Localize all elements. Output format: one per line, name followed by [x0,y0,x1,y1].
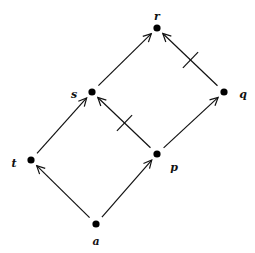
arrow-line [164,97,219,147]
node-p-dot [153,150,160,157]
node-p-label: p [170,161,178,174]
edges-layer [37,34,218,218]
edge-t-s [37,98,87,153]
labels-layer: rsqtpa [11,10,247,248]
node-r-label: r [154,10,161,23]
edge-q-r [163,34,218,86]
arrow-line [98,34,151,86]
hasse-diagram: rsqtpa [0,0,255,253]
node-r-dot [153,24,160,31]
edge-p-q [164,97,219,147]
node-a-label: a [92,235,99,248]
edge-s-r [98,34,151,86]
arrow-line [37,166,90,218]
node-s-label: s [71,88,77,101]
node-s-dot [88,88,95,95]
edge-a-p [102,160,152,217]
edge-a-t [37,166,90,218]
node-q-label: q [239,88,247,101]
arrow-line [102,160,152,217]
edge-p-s [98,98,151,148]
node-q-dot [220,88,227,95]
node-a-dot [92,220,99,227]
arrow-line [37,98,87,153]
node-t-label: t [11,157,16,170]
node-t-dot [27,156,34,163]
